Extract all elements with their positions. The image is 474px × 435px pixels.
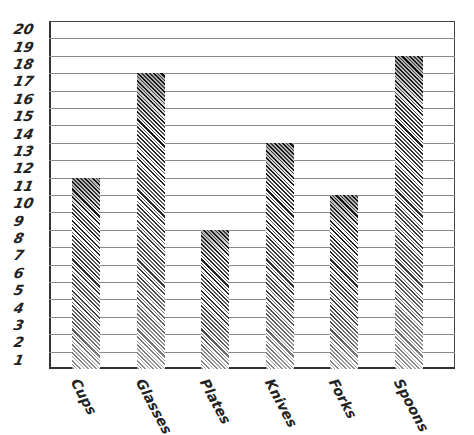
- y-tick-label: 19: [12, 39, 48, 56]
- y-tick-label: 7: [12, 247, 48, 264]
- bar-plates: [201, 230, 229, 369]
- y-tick-label: 6: [12, 265, 48, 282]
- y-tick-label: 11: [12, 178, 48, 195]
- x-tick-label: Plates: [197, 376, 234, 427]
- y-tick-label: 8: [12, 230, 48, 247]
- bar-cups: [72, 178, 100, 369]
- y-tick-label: 12: [12, 160, 48, 177]
- bar-spoons: [395, 56, 423, 369]
- bar-chart: 1234567891011121314151617181920 CupsGlas…: [0, 0, 474, 435]
- bar-forks: [330, 195, 358, 369]
- y-tick-label: 14: [12, 126, 48, 143]
- y-tick-label: 18: [12, 56, 48, 73]
- y-tick-label: 17: [12, 73, 48, 90]
- y-tick-label: 20: [12, 21, 48, 38]
- y-tick-label: 15: [12, 108, 48, 125]
- y-tick-label: 9: [12, 213, 48, 230]
- x-tick-label: Forks: [326, 376, 360, 421]
- y-tick-label: 16: [12, 91, 48, 108]
- y-tick-label: 4: [12, 300, 48, 317]
- y-tick-label: 1: [12, 352, 48, 369]
- y-tick-label: 13: [12, 143, 48, 160]
- y-tick-label: 2: [12, 334, 48, 351]
- y-tick-label: 3: [12, 317, 48, 334]
- x-tick-label: Spoons: [391, 376, 432, 434]
- y-tick-label: 5: [12, 282, 48, 299]
- gridline: [49, 38, 455, 39]
- x-tick-label: Cups: [68, 376, 100, 418]
- bar-knives: [266, 143, 294, 369]
- bar-glasses: [137, 73, 165, 369]
- y-tick-label: 10: [12, 195, 48, 212]
- x-tick-label: Knives: [262, 376, 301, 430]
- x-tick-label: Glasses: [132, 376, 174, 435]
